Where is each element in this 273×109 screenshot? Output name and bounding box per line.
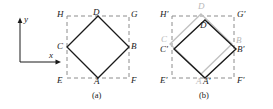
label-b-G-prime: G' [237, 10, 245, 19]
label-a-C: C [57, 42, 63, 51]
label-a-G: G [131, 10, 138, 19]
label-b-B-prime: B' [237, 45, 244, 54]
caption-panel-a: (a) [92, 91, 101, 100]
label-y-axis: y [24, 15, 28, 24]
panel-a-dashed-square [67, 16, 129, 78]
label-a-E: E [57, 76, 63, 85]
caption-panel-b: (b) [199, 91, 209, 100]
x-axis-arrowhead [56, 60, 62, 65]
panel-a-graphic [67, 16, 129, 78]
label-b-ghost-D: D [198, 2, 205, 11]
label-a-F: F [131, 76, 137, 85]
label-b-H-prime: H' [160, 10, 168, 19]
label-x-axis: x [49, 51, 53, 60]
label-b-F-prime: F' [237, 76, 244, 85]
label-a-H: H [57, 10, 64, 19]
label-b-ghost-A: A [196, 77, 202, 86]
label-a-D: D [93, 8, 100, 17]
label-a-A: A [94, 77, 100, 86]
panel-a-diamond [67, 16, 129, 78]
coordinate-axes [18, 18, 61, 65]
label-b-ghost-C: C [161, 35, 167, 44]
label-b-D-prime: D' [200, 21, 208, 30]
label-a-B: B [131, 42, 137, 51]
y-axis-arrowhead [18, 18, 23, 24]
label-b-E-prime: E' [160, 76, 167, 85]
figure-container: H D G C B E A F H' D D' G' C C' B B' E' … [0, 0, 273, 109]
label-b-C-prime: C' [160, 45, 168, 54]
label-b-A-prime: A' [203, 77, 210, 86]
